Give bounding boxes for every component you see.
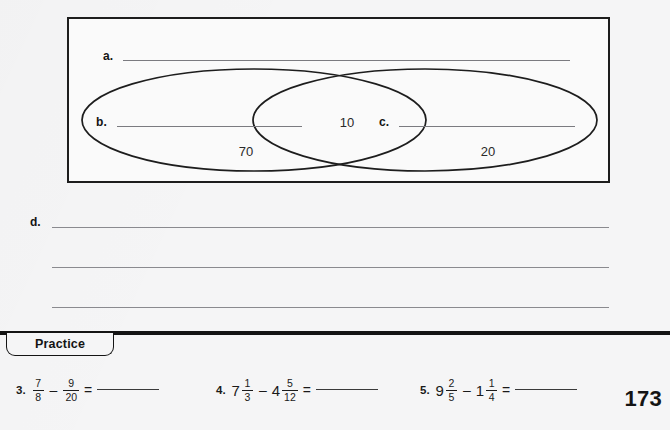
numerator: 7 xyxy=(33,378,43,390)
region-right-value: 20 xyxy=(468,144,508,159)
venn-ellipses xyxy=(69,19,612,185)
whole-number-1: 9 xyxy=(436,382,444,399)
diagram-answer-line-a[interactable] xyxy=(123,60,570,61)
long-answer-line-3[interactable] xyxy=(52,307,609,308)
venn-diagram-box: a. b. 70 10 c. 20 xyxy=(67,17,610,183)
practice-section-tab: Practice xyxy=(6,333,114,356)
whole-number-2: 4 xyxy=(272,382,280,399)
whole-number-1: 7 xyxy=(232,382,240,399)
fraction-term-1: 1 3 xyxy=(242,378,253,402)
denominator: 12 xyxy=(282,391,298,403)
diagram-label-a: a. xyxy=(103,49,113,63)
practice-problem-3: 3. 7 8 – 9 20 = xyxy=(16,378,159,402)
fraction-term-1: 2 5 xyxy=(446,378,457,402)
answer-blank[interactable] xyxy=(97,389,159,390)
fraction-term-2: 1 4 xyxy=(486,378,497,402)
diagram-label-b: b. xyxy=(96,115,107,129)
practice-problem-5: 5. 9 2 5 – 1 1 4 = xyxy=(420,378,577,402)
region-left-value: 70 xyxy=(226,144,266,159)
numerator: 2 xyxy=(447,378,457,390)
answer-blank[interactable] xyxy=(515,389,577,390)
operator-minus: – xyxy=(463,382,471,398)
denominator: 4 xyxy=(487,391,497,403)
ellipse-right xyxy=(253,69,597,171)
denominator: 8 xyxy=(33,391,43,403)
fraction-term-1: 7 8 xyxy=(33,378,44,402)
whole-number-2: 1 xyxy=(476,382,484,399)
operator-minus: – xyxy=(50,382,58,398)
problem-number: 5. xyxy=(420,384,430,396)
diagram-answer-line-b[interactable] xyxy=(117,126,302,127)
diagram-label-c: c. xyxy=(379,115,389,129)
region-overlap-value: 10 xyxy=(327,115,367,130)
answer-blank[interactable] xyxy=(316,389,378,390)
equals-sign: = xyxy=(84,382,92,398)
denominator: 20 xyxy=(63,391,79,403)
denominator: 5 xyxy=(447,391,457,403)
practice-problem-4: 4. 7 1 3 – 4 5 12 = xyxy=(216,378,378,402)
operator-minus: – xyxy=(259,382,267,398)
long-answer-line-1[interactable] xyxy=(52,227,609,228)
denominator: 3 xyxy=(243,391,253,403)
long-answer-label-d: d. xyxy=(30,215,41,229)
numerator: 5 xyxy=(285,378,295,390)
problem-number: 3. xyxy=(16,384,26,396)
numerator: 9 xyxy=(66,378,76,390)
problem-number: 4. xyxy=(216,384,226,396)
numerator: 1 xyxy=(243,378,253,390)
page-number: 173 xyxy=(624,386,662,412)
numerator: 1 xyxy=(487,378,497,390)
worksheet-page: a. b. 70 10 c. 20 d. Practice 3. 7 8 – 9… xyxy=(0,0,670,430)
equals-sign: = xyxy=(303,382,311,398)
fraction-term-2: 5 12 xyxy=(282,378,298,402)
long-answer-line-2[interactable] xyxy=(52,267,609,268)
equals-sign: = xyxy=(502,382,510,398)
practice-tab-label: Practice xyxy=(35,337,85,351)
fraction-term-2: 9 20 xyxy=(63,378,79,402)
diagram-answer-line-c[interactable] xyxy=(399,126,575,127)
